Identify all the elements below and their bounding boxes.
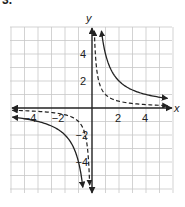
y-axis-label: y <box>85 12 93 24</box>
tick-x-2: 2 <box>115 112 121 124</box>
tick-y-neg4: −4 <box>75 156 88 168</box>
tick-y-4: 4 <box>80 48 86 60</box>
tick-x-neg4: −4 <box>24 112 37 124</box>
tick-x-4: 4 <box>142 112 148 124</box>
tick-y-2: 2 <box>80 75 86 87</box>
solid-curve-right <box>101 31 167 99</box>
tick-x-neg2: −2 <box>52 112 65 124</box>
x-axis-label: x <box>173 102 180 114</box>
solid-curve-left <box>12 117 82 187</box>
tick-y-neg2: −2 <box>75 129 88 141</box>
graph: x y −4 −2 2 4 4 2 −2 −4 <box>0 0 185 207</box>
